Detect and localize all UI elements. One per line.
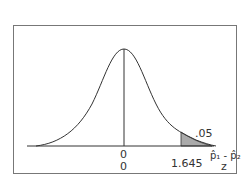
normal-curve-chart: 0 0 1.645 .05 p̂₁ - p̂₂ z: [0, 0, 250, 181]
area-label: .05: [195, 127, 213, 140]
normal-curve: [36, 49, 216, 146]
tick-center-bottom: 0: [120, 160, 127, 173]
z-axis-label: z: [221, 160, 227, 173]
critical-value-label: 1.645: [171, 157, 203, 170]
